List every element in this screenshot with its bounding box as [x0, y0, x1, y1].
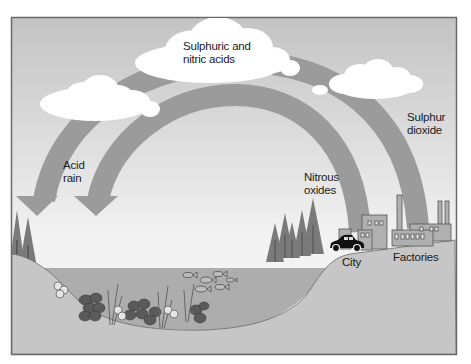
label-nitrous-oxides: Nitrous oxides [304, 171, 339, 197]
label-factories: Factories [393, 251, 439, 264]
label-acid-rain: Acid rain [63, 159, 85, 185]
label-city: City [342, 256, 361, 269]
label-sulphur-dioxide: Sulphur dioxide [407, 111, 445, 137]
label-sulphuric-nitric-acids: Sulphuric and nitric acids [183, 40, 251, 66]
